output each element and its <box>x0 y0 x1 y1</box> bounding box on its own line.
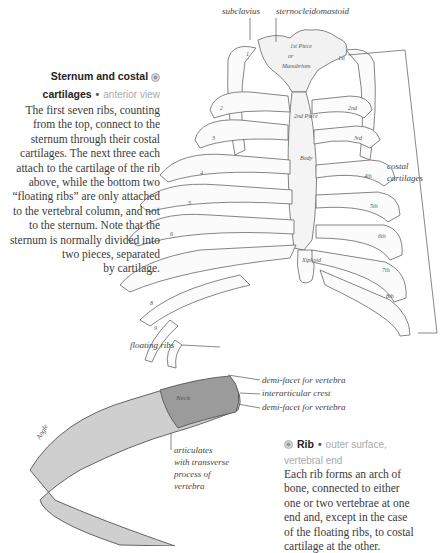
svg-text:2nd: 2nd <box>348 105 358 111</box>
label-interarticular-crest: interarticular crest <box>262 388 330 398</box>
body-line: two pieces, separated <box>0 247 160 261</box>
rib-heading: Rib <box>297 438 314 450</box>
label-demi-facet-top: demi-facet for vertebra <box>262 375 345 385</box>
label-costal-line1: costal <box>387 160 423 172</box>
sternum-caption: Sternum and costal cartilages • anterior… <box>0 70 160 276</box>
label-line: articulates <box>174 444 229 456</box>
svg-text:4: 4 <box>200 170 203 176</box>
body-line: cartilage at the other. <box>284 539 444 553</box>
body-line: The first seven ribs, counting <box>0 103 160 117</box>
rib-subtitle-line2: vertebral end <box>284 455 444 466</box>
svg-text:Angle: Angle <box>34 423 50 442</box>
label-subclavius: subclavius <box>222 6 260 16</box>
body-line: cartilages. The next three each <box>0 146 160 160</box>
svg-text:8th: 8th <box>386 293 394 299</box>
body-line: sternum is normally divided into <box>0 233 160 247</box>
label-demi-facet-bottom: demi-facet for vertebra <box>262 402 345 412</box>
label-costal-cartilages: costal cartilages <box>387 160 423 184</box>
sternum-heading-line2: cartilages <box>43 88 92 100</box>
svg-text:1st Piece: 1st Piece <box>290 43 312 49</box>
sternum-heading-line1: Sternum and costal <box>51 70 148 82</box>
circle-bullet-icon <box>284 440 293 449</box>
sternum-subtitle: anterior view <box>103 89 160 100</box>
sternum-body: The first seven ribs, counting from the … <box>0 103 160 276</box>
body-line: of the floating ribs, to costal <box>284 525 444 539</box>
sternum-heading: Sternum and costal <box>0 70 160 82</box>
rib-heading-row: Rib • outer surface, <box>284 434 444 452</box>
bullet-separator: • <box>318 438 322 450</box>
sternum-subheading: cartilages • anterior view <box>0 84 160 102</box>
label-sternocleidomastoid: sternocleidomastoid <box>276 6 349 16</box>
svg-text:3: 3 <box>211 135 215 141</box>
svg-text:3rd: 3rd <box>353 135 363 141</box>
body-line: to the sternum. Note that the <box>0 218 160 232</box>
svg-text:6th: 6th <box>378 233 386 239</box>
svg-text:5th: 5th <box>370 203 378 209</box>
body-line: bone, connected to either <box>284 481 444 495</box>
body-line: sternum through their costal <box>0 132 160 146</box>
label-articulates: articulates with transverse process of v… <box>174 444 229 492</box>
body-line: above, while the bottom two <box>0 175 160 189</box>
svg-text:or: or <box>288 53 294 59</box>
rib-body: Each rib forms an arch of bone, connecte… <box>284 467 444 553</box>
svg-text:6: 6 <box>170 231 173 237</box>
svg-text:1st: 1st <box>338 55 345 61</box>
label-costal-line2: cartilages <box>387 172 423 184</box>
rib-subtitle-line1: outer surface, <box>326 439 387 450</box>
body-line: Each rib forms an arch of <box>284 467 444 481</box>
label-line: vertebra <box>174 480 229 492</box>
svg-text:1: 1 <box>246 51 249 57</box>
svg-text:5: 5 <box>188 200 191 206</box>
body-line: end and, except in the case <box>284 510 444 524</box>
label-line: process of <box>174 468 229 480</box>
svg-text:Xiphoid: Xiphoid <box>301 257 322 263</box>
svg-text:9: 9 <box>154 325 157 331</box>
svg-text:4th: 4th <box>364 173 372 179</box>
svg-text:8: 8 <box>150 300 153 306</box>
body-line: by cartilage. <box>0 261 160 275</box>
svg-text:2nd Piece: 2nd Piece <box>294 113 318 119</box>
body-line: one or two vertebrae at one <box>284 496 444 510</box>
body-line: from the top, connect to the <box>0 117 160 131</box>
svg-text:7th: 7th <box>382 267 390 273</box>
bullet-separator: • <box>96 88 100 100</box>
svg-text:Neck: Neck <box>175 394 191 402</box>
rib-caption: Rib • outer surface, vertebral end Each … <box>284 434 444 553</box>
svg-text:Body: Body <box>300 155 313 161</box>
svg-text:Manubrium: Manubrium <box>281 63 311 69</box>
svg-text:2: 2 <box>220 105 223 111</box>
label-line: with transverse <box>174 456 229 468</box>
body-line: to the vertebral column, and not <box>0 204 160 218</box>
body-line: “floating ribs” are only attached <box>0 189 160 203</box>
body-line: attach to the cartilage of the rib <box>0 161 160 175</box>
label-floating-ribs: floating ribs <box>130 340 174 350</box>
circle-bullet-icon <box>151 73 160 82</box>
